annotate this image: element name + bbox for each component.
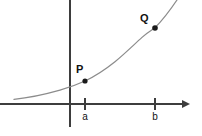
arrow-right-icon xyxy=(182,100,190,108)
exponential-curve xyxy=(14,0,177,99)
exponential-curve-figure: P Q a b xyxy=(0,0,202,136)
tick-label-a: a xyxy=(82,111,88,122)
point-q-label: Q xyxy=(140,12,149,24)
point-p-dot xyxy=(82,78,87,83)
tick-label-b: b xyxy=(152,111,158,122)
point-q-dot xyxy=(152,25,158,31)
point-p-label: P xyxy=(76,63,83,75)
figure-container: P Q a b xyxy=(0,0,202,136)
